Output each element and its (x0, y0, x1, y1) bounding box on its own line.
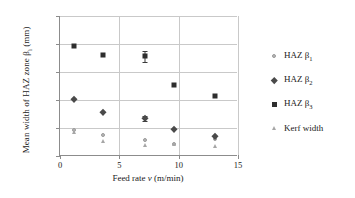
legend-label-subscript: 2 (309, 79, 312, 86)
gridline-horizontal (60, 16, 237, 17)
data-point (72, 130, 76, 134)
legend-diamond-icon (268, 78, 280, 83)
legend-square-icon (268, 102, 280, 107)
legend-item-label: HAZ β3 (284, 98, 313, 110)
y-tick-mark (56, 72, 60, 73)
chart-figure: Mean width of HAZ zone βi (mm) 00.51.01.… (0, 0, 355, 198)
legend-label-main: HAZ β (284, 98, 309, 108)
x-tick-label: 5 (109, 160, 129, 170)
data-point (143, 143, 147, 147)
legend-label-main: HAZ β (284, 50, 309, 60)
legend-label-subscript: 1 (309, 55, 312, 62)
y-tick-mark (56, 100, 60, 101)
x-tick-mark (238, 155, 239, 159)
legend-item-label: HAZ β2 (284, 74, 313, 86)
error-bar-cap (143, 62, 148, 63)
data-point (172, 142, 176, 146)
y-axis-label: Mean width of HAZ zone βi (mm) (21, 5, 33, 175)
data-point (213, 93, 218, 98)
gridline-horizontal (60, 128, 237, 129)
legend-triangle-icon (268, 126, 280, 130)
data-point (171, 83, 176, 88)
legend-item[interactable]: HAZ β1 (268, 44, 323, 68)
x-axis-label-suffix: (m/min) (152, 173, 184, 183)
x-tick-label: 10 (169, 160, 189, 170)
x-tick-label: 15 (228, 160, 248, 170)
gridline-vertical (238, 16, 239, 155)
legend-item-label: HAZ β1 (284, 50, 313, 62)
y-tick-mark (56, 44, 60, 45)
y-axis-label-main: Mean width of HAZ zone β (21, 51, 31, 153)
x-axis-label-prefix: Feed rate (112, 173, 147, 183)
y-axis-label-unit: (mm) (21, 26, 31, 49)
plot-area: 00.51.01.52.02.5 051015 (59, 16, 237, 156)
data-point (171, 126, 177, 132)
x-tick-mark (179, 155, 180, 159)
x-tick-mark (119, 155, 120, 159)
data-point (143, 138, 147, 142)
legend-item[interactable]: HAZ β3 (268, 92, 323, 116)
data-point (71, 96, 77, 102)
legend-label-subscript: 3 (309, 103, 312, 110)
legend-item-label: Kerf width (284, 123, 323, 133)
legend-label-main: HAZ β (284, 74, 309, 84)
data-point (100, 109, 106, 115)
gridline-horizontal (60, 44, 237, 45)
x-tick-label: 0 (50, 160, 70, 170)
data-point (213, 144, 217, 148)
data-point (101, 139, 105, 143)
y-axis-label-subscript: i (26, 49, 33, 51)
y-tick-mark (56, 128, 60, 129)
y-tick-mark (56, 16, 60, 17)
data-point (101, 133, 105, 137)
x-axis-label: Feed rate v (m/min) (59, 173, 237, 183)
data-point (100, 52, 105, 57)
gridline-horizontal (60, 100, 237, 101)
legend-item[interactable]: HAZ β2 (268, 68, 323, 92)
error-bar-cap (143, 51, 148, 52)
data-point (72, 43, 77, 48)
data-point (143, 54, 148, 59)
gridline-vertical (179, 16, 180, 155)
chart-legend: HAZ β1HAZ β2HAZ β3Kerf width (268, 44, 323, 140)
x-tick-mark (60, 155, 61, 159)
legend-label-main: Kerf width (284, 123, 323, 133)
gridline-vertical (119, 16, 120, 155)
legend-item[interactable]: Kerf width (268, 116, 323, 140)
legend-circle-icon (268, 54, 280, 58)
gridline-horizontal (60, 72, 237, 73)
